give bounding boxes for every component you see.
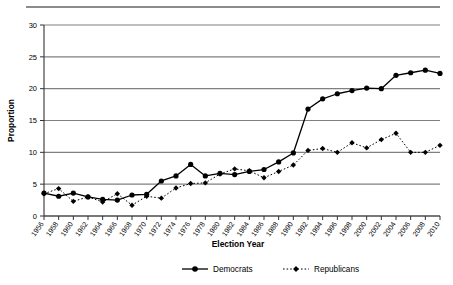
svg-text:1956: 1956 <box>29 220 46 238</box>
svg-text:1960: 1960 <box>58 220 75 238</box>
y-axis-ticks-group: 051015202530 <box>29 21 44 221</box>
legend-label-republicans: Republicans <box>314 265 359 274</box>
svg-text:1980: 1980 <box>205 220 222 238</box>
svg-text:20: 20 <box>29 84 37 93</box>
svg-text:2000: 2000 <box>352 220 369 238</box>
top-divider-rule <box>26 6 440 8</box>
svg-text:2008: 2008 <box>410 220 427 238</box>
svg-text:1974: 1974 <box>161 220 178 238</box>
svg-text:1958: 1958 <box>44 220 61 238</box>
svg-text:1968: 1968 <box>117 220 134 238</box>
svg-text:1994: 1994 <box>308 220 325 238</box>
svg-text:1992: 1992 <box>293 220 310 238</box>
chart-legend: DemocratsRepublicans <box>182 265 359 274</box>
svg-text:1986: 1986 <box>249 220 266 238</box>
svg-text:0: 0 <box>33 212 37 221</box>
svg-text:1978: 1978 <box>190 220 207 238</box>
svg-text:1982: 1982 <box>220 220 237 238</box>
svg-text:5: 5 <box>33 180 37 189</box>
svg-text:2002: 2002 <box>366 220 383 238</box>
svg-text:15: 15 <box>29 116 37 125</box>
svg-text:1998: 1998 <box>337 220 354 238</box>
svg-text:1970: 1970 <box>132 220 149 238</box>
x-axis-title: Election Year <box>212 239 265 249</box>
svg-text:25: 25 <box>29 53 37 62</box>
chart-figure: 051015202530 195619581960196219641966196… <box>0 0 453 285</box>
gridlines-group <box>44 25 440 216</box>
line-chart-plot: 051015202530 195619581960196219641966196… <box>0 0 453 285</box>
svg-text:1990: 1990 <box>278 220 295 238</box>
x-axis-ticks-group: 1956195819601962196419661968197019721974… <box>29 216 442 238</box>
svg-text:1984: 1984 <box>234 220 251 238</box>
svg-text:1976: 1976 <box>176 220 193 238</box>
svg-text:30: 30 <box>29 21 37 30</box>
legend-label-democrats: Democrats <box>213 265 253 274</box>
y-axis-title: Proportion <box>6 99 16 142</box>
svg-text:2010: 2010 <box>425 220 442 238</box>
svg-text:2006: 2006 <box>396 220 413 238</box>
svg-text:1972: 1972 <box>146 220 163 238</box>
svg-text:1996: 1996 <box>322 220 339 238</box>
svg-text:1988: 1988 <box>264 220 281 238</box>
svg-text:1964: 1964 <box>88 220 105 238</box>
svg-text:2004: 2004 <box>381 220 398 238</box>
svg-text:1962: 1962 <box>73 220 90 238</box>
svg-text:1966: 1966 <box>102 220 119 238</box>
svg-text:10: 10 <box>29 148 37 157</box>
